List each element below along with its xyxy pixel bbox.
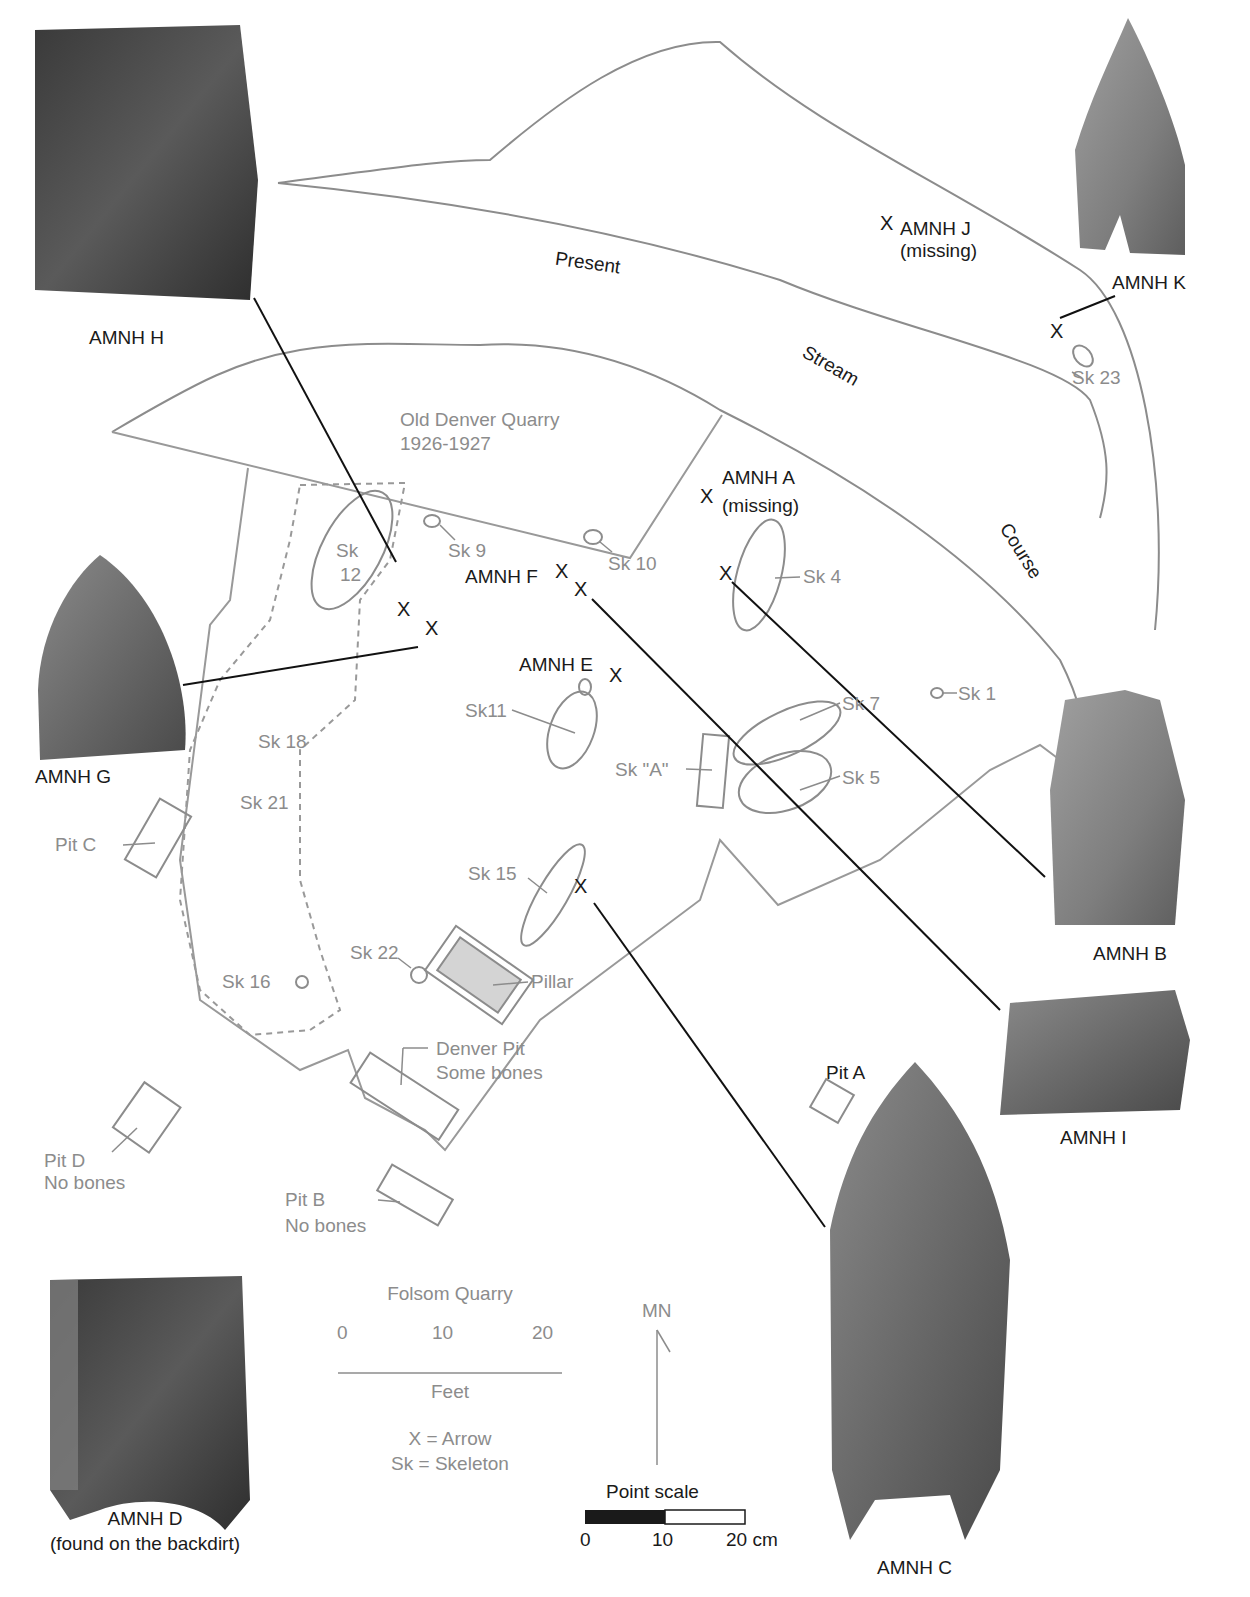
label-amnh-d-note: (found on the backdirt) <box>0 1533 290 1555</box>
label-sk15: Sk 15 <box>468 863 517 885</box>
amnh-c-photo <box>830 1062 1010 1540</box>
label-sk9: Sk 9 <box>448 540 486 562</box>
label-sk23: Sk 23 <box>1072 367 1121 389</box>
folsom-site-map: X X X X X X X X X X Present Stream Cours… <box>0 0 1250 1597</box>
gray-leaders <box>112 372 1082 1202</box>
scale-tick-20: 20 <box>532 1322 553 1344</box>
marker-a: X <box>700 485 713 507</box>
scale-tick-10: 10 <box>432 1322 453 1344</box>
label-pillar: Pillar <box>531 971 573 993</box>
point-scale-black <box>585 1510 665 1524</box>
point-scale-0: 0 <box>580 1529 591 1551</box>
label-sk12-a: Sk <box>336 540 358 562</box>
scale-tick-0: 0 <box>337 1322 348 1344</box>
label-amnh-i: AMNH I <box>1060 1127 1127 1149</box>
label-amnh-g: AMNH G <box>35 766 111 788</box>
amnh-k-photo <box>1075 18 1185 255</box>
label-sk7: Sk 7 <box>842 693 880 715</box>
label-sk10: Sk 10 <box>608 553 657 575</box>
marker-f1: X <box>555 560 568 582</box>
marker-f2: X <box>574 578 587 600</box>
map-title: Folsom Quarry <box>338 1283 562 1305</box>
marker-h: X <box>397 598 410 620</box>
label-pit-b-note: No bones <box>285 1215 366 1237</box>
label-sk1: Sk 1 <box>958 683 996 705</box>
label-sk18: Sk 18 <box>258 731 307 753</box>
label-denver-note: Some bones <box>436 1062 543 1084</box>
label-denver-pit: Denver Pit <box>436 1038 525 1060</box>
point-scale-title: Point scale <box>606 1481 699 1503</box>
label-pit-d: Pit D <box>44 1150 85 1172</box>
amnh-d-photo <box>50 1276 250 1530</box>
marker-j: X <box>880 212 893 234</box>
legend-skeleton: Sk = Skeleton <box>338 1453 562 1475</box>
label-sk-a: Sk "A" <box>615 759 669 781</box>
point-photos <box>35 18 1190 1540</box>
label-amnh-j: AMNH J <box>900 218 971 240</box>
label-pit-a: Pit A <box>826 1062 865 1084</box>
label-amnh-a-note: (missing) <box>722 495 799 517</box>
label-amnh-j-note: (missing) <box>900 240 977 262</box>
amnh-i-photo <box>1000 990 1190 1115</box>
amnh-b-photo <box>1050 690 1185 925</box>
label-amnh-b: AMNH B <box>1093 943 1167 965</box>
label-sk5: Sk 5 <box>842 767 880 789</box>
label-sk4: Sk 4 <box>803 566 841 588</box>
label-amnh-k: AMNH K <box>1112 272 1186 294</box>
amnh-h-photo <box>35 25 258 300</box>
label-amnh-f: AMNH F <box>465 566 538 588</box>
label-pit-c: Pit C <box>55 834 96 856</box>
marker-g: X <box>425 617 438 639</box>
label-amnh-h: AMNH H <box>89 327 164 349</box>
quarry-label-name: Old Denver Quarry <box>400 409 559 431</box>
point-scale-10: 10 <box>652 1529 673 1551</box>
marker-c: X <box>574 875 587 897</box>
label-amnh-c: AMNH C <box>877 1557 952 1579</box>
label-sk16: Sk 16 <box>222 971 271 993</box>
label-pit-b: Pit B <box>285 1189 325 1211</box>
stream-banks <box>112 42 1159 790</box>
label-sk11: Sk11 <box>465 700 507 722</box>
map-drawing <box>0 0 1250 1597</box>
marker-b: X <box>719 562 732 584</box>
marker-e: X <box>609 664 622 686</box>
point-scale-20: 20 cm <box>726 1529 778 1551</box>
label-sk21: Sk 21 <box>240 792 289 814</box>
label-amnh-e: AMNH E <box>519 654 593 676</box>
marker-k: X <box>1050 320 1063 342</box>
label-sk12-b: 12 <box>340 564 361 586</box>
scale-unit: Feet <box>338 1381 562 1403</box>
point-scale-white <box>665 1510 745 1524</box>
label-amnh-d: AMNH D <box>0 1508 290 1530</box>
label-pit-d-note: No bones <box>44 1172 125 1194</box>
north-label: MN <box>642 1300 672 1322</box>
label-sk22: Sk 22 <box>350 942 399 964</box>
quarry-outline <box>112 415 1060 1150</box>
quarry-label-years: 1926-1927 <box>400 433 491 455</box>
legend-arrow: X = Arrow <box>338 1428 562 1450</box>
amnh-g-photo <box>38 555 186 760</box>
label-amnh-a: AMNH A <box>722 467 795 489</box>
